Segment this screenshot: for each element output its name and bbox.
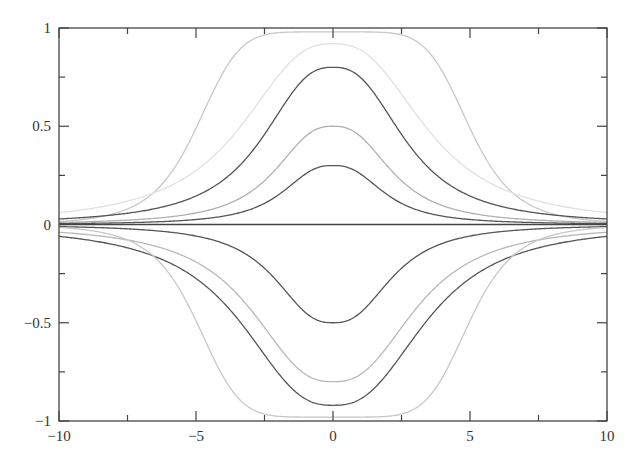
x-tick-label: −5 (188, 428, 204, 444)
curve-upper-3 (59, 67, 607, 219)
y-tick-label: −0.5 (24, 315, 51, 331)
y-axis-tick-labels: −1−0.500.51 (24, 20, 51, 429)
curve-upper-5 (59, 166, 607, 224)
x-tick-label: 10 (600, 428, 615, 444)
y-tick-label: 1 (44, 20, 52, 36)
curve-lower-1 (59, 227, 607, 323)
y-tick-label: −1 (35, 413, 51, 429)
curve-lower-2 (59, 232, 607, 381)
x-tick-label: 5 (466, 428, 474, 444)
curve-upper-2 (59, 44, 607, 213)
curve-upper-4 (59, 126, 607, 222)
y-tick-label: 0.5 (32, 118, 51, 134)
curve-lower-3 (59, 236, 607, 405)
line-chart: −10−50510 −1−0.500.51 (0, 0, 633, 464)
y-tick-label: 0 (44, 217, 52, 233)
x-axis-tick-labels: −10−50510 (47, 428, 614, 444)
x-tick-label: −10 (47, 428, 70, 444)
x-tick-label: 0 (329, 428, 337, 444)
